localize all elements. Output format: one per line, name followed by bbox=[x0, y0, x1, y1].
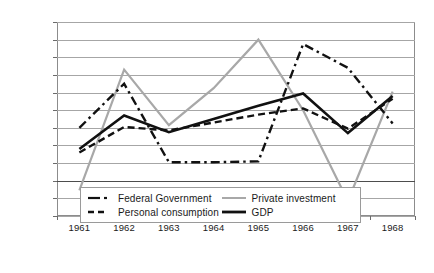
series-line-personal-consumption bbox=[79, 99, 392, 153]
dash-dot-line-icon bbox=[87, 193, 113, 203]
series-line-federal-government bbox=[79, 44, 392, 162]
legend-label: Federal Government bbox=[118, 193, 212, 204]
x-tick-label: 1965 bbox=[248, 222, 270, 233]
x-tick-label: 1964 bbox=[203, 222, 225, 233]
x-tick-mark bbox=[415, 216, 416, 220]
x-tick-label: 1963 bbox=[158, 222, 180, 233]
legend-label: Personal consumption bbox=[118, 207, 219, 218]
x-tick-label: 1968 bbox=[382, 222, 404, 233]
x-tick-label: 1967 bbox=[337, 222, 359, 233]
line-chart: 18%16%14%12%10%8%6%4%2%0%-2%-4% 19611962… bbox=[0, 0, 434, 273]
chart-legend: Federal Government Private investment Pe… bbox=[80, 187, 361, 223]
solid-gray-line-icon bbox=[221, 193, 247, 203]
legend-label: Private investment bbox=[252, 193, 336, 204]
x-tick-label: 1962 bbox=[113, 222, 135, 233]
dashed-line-icon bbox=[87, 207, 113, 217]
x-tick-mark bbox=[57, 216, 58, 220]
x-tick-mark bbox=[370, 216, 371, 220]
legend-row: Federal Government Private investment bbox=[87, 191, 354, 205]
series-line-private-investment bbox=[79, 40, 392, 201]
solid-black-line-icon bbox=[221, 207, 247, 217]
legend-item-gdp: GDP bbox=[221, 207, 355, 218]
legend-item-personal-consumption: Personal consumption bbox=[87, 207, 221, 218]
legend-row: Personal consumption GDP bbox=[87, 205, 354, 219]
x-tick-label: 1961 bbox=[69, 222, 91, 233]
x-tick-label: 1966 bbox=[292, 222, 314, 233]
series-line-gdp bbox=[79, 93, 392, 149]
legend-item-federal-government: Federal Government bbox=[87, 193, 221, 204]
legend-item-private-investment: Private investment bbox=[221, 193, 355, 204]
legend-label: GDP bbox=[252, 207, 274, 218]
